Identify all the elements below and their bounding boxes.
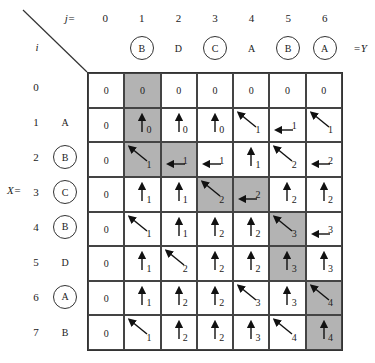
- circled-row-char: A: [53, 285, 77, 309]
- table-cell: 1: [306, 108, 342, 143]
- circled-row-char: C: [53, 180, 77, 204]
- up-arrow-icon: [137, 286, 147, 310]
- cell-value: 3: [292, 263, 297, 274]
- table-cell: 1: [197, 142, 233, 177]
- diagonal-arrow-icon: [164, 249, 186, 271]
- diagonal-arrow-icon: [309, 284, 331, 306]
- table-cell: 2: [233, 246, 269, 281]
- cell-value: 0: [183, 124, 188, 135]
- up-arrow-icon: [282, 182, 292, 206]
- cell-value: 0: [104, 119, 109, 130]
- table-cell: 1: [233, 108, 269, 143]
- table-cell: 4: [269, 315, 305, 350]
- cell-value: 0: [176, 85, 181, 96]
- row-index: 7: [33, 326, 39, 338]
- diagonal-arrow-icon: [200, 180, 222, 202]
- row-char: B: [62, 326, 69, 337]
- table-cell: 0: [197, 108, 233, 143]
- table-cell: 0: [269, 73, 305, 108]
- up-arrow-icon: [210, 251, 220, 275]
- table-cell: 0: [124, 73, 160, 108]
- cell-value: 2: [183, 332, 188, 343]
- column-index: 0: [103, 12, 109, 24]
- table-cell: 2: [161, 281, 197, 316]
- cell-value: 0: [147, 124, 152, 135]
- up-arrow-icon: [282, 251, 292, 275]
- table-cell: 1: [269, 108, 305, 143]
- row-index: 0: [33, 81, 39, 93]
- cell-value: 2: [219, 297, 224, 308]
- table-cell: 1: [161, 212, 197, 247]
- circled-column-char: B: [276, 36, 300, 60]
- cell-value: 0: [104, 293, 109, 304]
- up-arrow-icon: [319, 251, 329, 275]
- up-arrow-icon: [137, 182, 147, 206]
- left-arrow-icon: [202, 155, 222, 173]
- table-cell: 3: [269, 246, 305, 281]
- cell-value: 2: [328, 194, 333, 205]
- column-index: 6: [322, 12, 328, 24]
- diagonal-arrow-icon: [272, 215, 294, 237]
- up-arrow-icon: [210, 320, 220, 344]
- table-cell: 0: [88, 108, 124, 143]
- table-cell: 2: [161, 246, 197, 281]
- cell-value: 2: [219, 332, 224, 343]
- up-arrow-icon: [246, 320, 256, 344]
- row-index: 5: [33, 256, 39, 268]
- cell-value: 1: [183, 228, 188, 239]
- up-arrow-icon: [319, 320, 329, 344]
- row-index: 3: [33, 186, 39, 198]
- cell-value: 1: [147, 297, 152, 308]
- cell-value: 4: [328, 332, 333, 343]
- table-cell: 2: [233, 212, 269, 247]
- up-arrow-icon: [210, 113, 220, 137]
- left-arrow-icon: [274, 121, 294, 139]
- table-cell: 1: [161, 177, 197, 212]
- table-cell: 1: [124, 212, 160, 247]
- table-cell: 1: [124, 315, 160, 350]
- table-cell: 4: [306, 315, 342, 350]
- table-cell: 0: [306, 73, 342, 108]
- table-cell: 3: [233, 315, 269, 350]
- row-index: 2: [33, 151, 39, 163]
- up-arrow-icon: [282, 286, 292, 310]
- table-cell: 0: [88, 212, 124, 247]
- cell-value: 1: [183, 194, 188, 205]
- column-index: 4: [249, 12, 255, 24]
- row-index: 4: [33, 221, 39, 233]
- up-arrow-icon: [246, 217, 256, 241]
- up-arrow-icon: [174, 320, 184, 344]
- table-cell: 2: [306, 177, 342, 212]
- up-arrow-icon: [174, 217, 184, 241]
- cell-value: 0: [104, 223, 109, 234]
- circled-column-char: B: [130, 36, 154, 60]
- table-cell: 2: [197, 246, 233, 281]
- corner-diagonal-line: [0, 0, 90, 75]
- equals-y-label: =Y: [353, 42, 367, 54]
- table-cell: 0: [161, 108, 197, 143]
- table-cell: 0: [124, 108, 160, 143]
- left-arrow-icon: [166, 155, 186, 173]
- cell-value: 0: [219, 124, 224, 135]
- up-arrow-icon: [174, 182, 184, 206]
- table-cell: 2: [269, 177, 305, 212]
- table-cell: 1: [233, 142, 269, 177]
- cell-value: 1: [255, 159, 260, 170]
- table-cell: 2: [233, 177, 269, 212]
- table-cell: 1: [124, 246, 160, 281]
- cell-value: 3: [292, 297, 297, 308]
- table-cell: 0: [88, 73, 124, 108]
- up-arrow-icon: [210, 217, 220, 241]
- cell-value: 1: [147, 263, 152, 274]
- x-equals-label: X=: [7, 184, 21, 196]
- up-arrow-icon: [246, 147, 256, 171]
- cell-value: 2: [219, 228, 224, 239]
- table-cell: 0: [88, 142, 124, 177]
- table-cell: 3: [269, 281, 305, 316]
- cell-value: 0: [212, 85, 217, 96]
- table-cell: 0: [197, 73, 233, 108]
- cell-value: 0: [104, 327, 109, 338]
- circled-column-char: C: [203, 36, 227, 60]
- table-cell: 3: [306, 246, 342, 281]
- table-cell: 2: [306, 142, 342, 177]
